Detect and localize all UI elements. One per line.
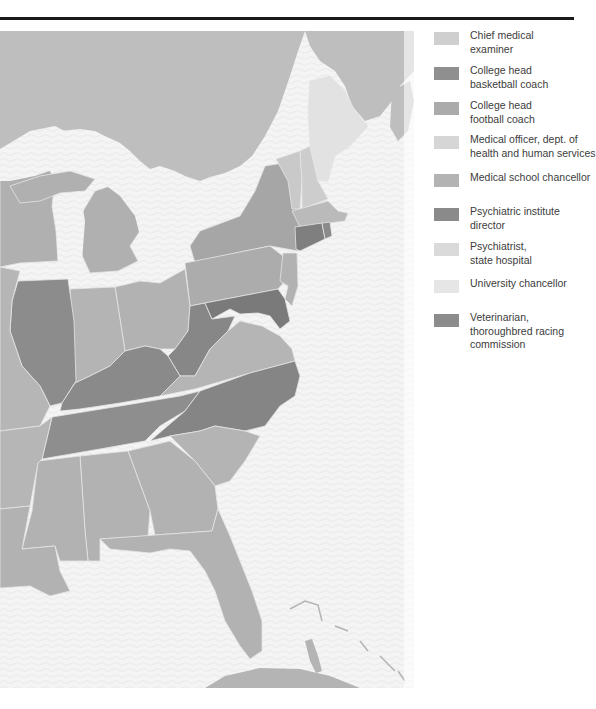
legend-swatch [434,208,459,221]
legend-label: Medical school chancellor [470,171,574,185]
legend-label: University chancellor [470,277,574,291]
legend-swatch [434,32,459,45]
legend-swatch [434,280,459,293]
legend-label: Psychiatric institute director [470,205,574,232]
legend-label: College head basketball coach [470,64,574,91]
legend-swatch [434,67,459,80]
legend-swatch [434,136,459,149]
legend-swatch [434,102,459,115]
legend-label: College head football coach [470,99,574,126]
legend-swatch [434,314,459,327]
legend-label: Chief medical examiner [470,29,574,56]
eastern-us-map [0,31,414,688]
legend-label: Medical officer, dept. of health and hum… [470,133,582,160]
legend-swatch [434,243,459,256]
legend-label: Veterinarian, thoroughbred racing commis… [470,311,574,352]
legend-swatch [434,174,459,187]
legend-label: Psychiatrist, state hospital [470,240,574,267]
top-rule [0,17,574,20]
